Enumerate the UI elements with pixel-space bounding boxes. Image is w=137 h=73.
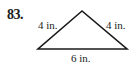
left-side-label: 4 in. xyxy=(38,19,58,31)
base-label: 6 in. xyxy=(71,52,91,64)
right-side-label: 4 in. xyxy=(106,19,126,31)
triangle-figure xyxy=(0,0,137,73)
